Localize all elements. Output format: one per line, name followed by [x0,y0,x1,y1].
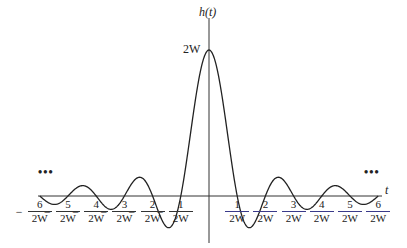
tick-minus: − [16,205,23,220]
x-tick-label: 32W [282,199,306,224]
tick-minus: − [157,205,164,220]
tick-minus: − [44,205,51,220]
peak-label: 2W [183,43,200,55]
tick-numerator: 5 [338,199,362,212]
tick-denominator: 2W [310,212,334,224]
tick-denominator: 2W [282,212,306,224]
tick-numerator: 3 [282,199,306,212]
ellipsis-right: ••• [364,165,380,180]
tick-numerator: 4 [310,199,334,212]
x-tick-label: 22W [253,199,277,224]
tick-minus: − [129,205,136,220]
tick-minus: − [72,205,79,220]
tick-numerator: 6 [366,199,390,212]
tick-denominator: 2W [338,212,362,224]
tick-denominator: 2W [366,212,390,224]
x-tick-label: 52W [338,199,362,224]
tick-denominator: 2W [225,212,249,224]
tick-denominator: 2W [169,212,193,224]
tick-numerator: 1 [225,199,249,212]
x-axis-label: t [385,184,388,196]
tick-minus: − [100,205,107,220]
x-tick-label: 12W [225,199,249,224]
tick-denominator: 2W [253,212,277,224]
tick-numerator: 1 [169,199,193,212]
ellipsis-left: ••• [38,165,54,180]
x-tick-label: 42W [310,199,334,224]
sinc-plot: h(t) t 2W ••• ••• −62W−52W−42W−32W−22W−1… [0,0,407,248]
x-tick-label: 62W [366,199,390,224]
x-tick-label: 12W [169,199,193,224]
y-axis-label: h(t) [199,6,216,18]
tick-numerator: 2 [253,199,277,212]
